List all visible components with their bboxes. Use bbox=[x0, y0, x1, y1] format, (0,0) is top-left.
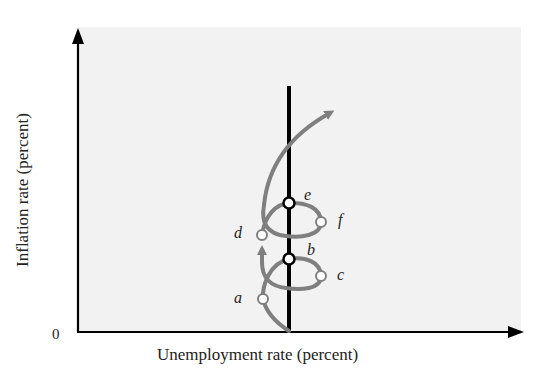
point-b bbox=[284, 254, 295, 265]
label-b: b bbox=[307, 241, 315, 259]
point-e bbox=[284, 198, 295, 209]
label-c: c bbox=[337, 266, 344, 284]
label-d: d bbox=[234, 224, 242, 242]
phillips-curve-diagram bbox=[0, 0, 539, 379]
y-axis-label: Inflation rate (percent) bbox=[13, 113, 33, 267]
origin-label: 0 bbox=[52, 326, 60, 343]
point-d bbox=[257, 230, 267, 240]
point-c bbox=[316, 271, 326, 281]
point-f bbox=[316, 217, 326, 227]
x-axis-label: Unemployment rate (percent) bbox=[157, 345, 358, 365]
point-a bbox=[258, 294, 268, 304]
label-e: e bbox=[304, 186, 311, 204]
label-f: f bbox=[338, 211, 342, 229]
label-a: a bbox=[234, 289, 242, 307]
y-axis bbox=[72, 28, 84, 332]
x-axis bbox=[77, 326, 524, 338]
